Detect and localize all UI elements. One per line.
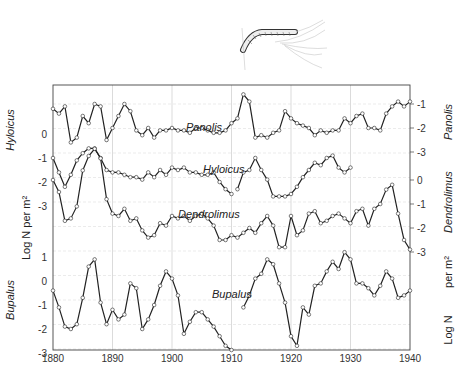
data-point: [152, 303, 156, 307]
left-axis-species-bupalus: Bupalus: [4, 280, 16, 320]
data-point: [230, 121, 234, 125]
right-tick-label: -2: [417, 223, 426, 234]
data-point: [146, 236, 150, 240]
data-point: [378, 129, 382, 133]
data-point: [295, 185, 299, 189]
data-point: [355, 282, 359, 286]
right-axis-species-panolis: Panolis: [442, 103, 454, 140]
data-point: [289, 192, 293, 196]
data-point: [242, 93, 246, 97]
data-point: [242, 306, 246, 310]
data-point: [265, 258, 269, 262]
data-point: [248, 168, 252, 172]
data-point: [236, 117, 240, 121]
data-point: [307, 126, 311, 130]
data-point: [283, 245, 287, 249]
data-point: [93, 147, 97, 151]
data-point: [396, 212, 400, 216]
data-point: [111, 212, 115, 216]
data-point: [313, 161, 317, 165]
data-point: [408, 100, 412, 104]
data-point: [259, 272, 263, 276]
data-point: [271, 195, 275, 199]
data-point: [146, 171, 150, 175]
data-point: [75, 322, 79, 326]
data-point: [283, 109, 287, 113]
data-point: [301, 124, 305, 128]
series-line-bupalus: [243, 252, 410, 346]
data-point: [361, 282, 365, 286]
data-point: [224, 344, 228, 348]
data-point: [117, 114, 121, 118]
data-point: [396, 100, 400, 104]
data-point: [367, 286, 371, 290]
x-tick-label: 1930: [339, 353, 362, 364]
data-point: [230, 192, 234, 196]
data-point: [408, 289, 412, 293]
data-point: [313, 284, 317, 288]
data-point: [146, 318, 150, 322]
left-tick-label: -2: [38, 177, 47, 188]
data-point: [390, 105, 394, 109]
data-point: [170, 166, 174, 170]
x-tick-label: 1920: [280, 353, 303, 364]
data-point: [325, 131, 329, 135]
data-point: [259, 168, 263, 172]
right-axis-title-log: Log N: [442, 315, 454, 344]
data-point: [248, 226, 252, 230]
data-point: [301, 306, 305, 310]
data-point: [361, 207, 365, 211]
data-point: [81, 296, 85, 300]
data-point: [361, 112, 365, 116]
data-point: [206, 318, 210, 322]
data-point: [295, 233, 299, 237]
data-point: [337, 129, 341, 133]
data-point: [99, 301, 103, 305]
data-point: [194, 171, 198, 175]
data-point: [367, 126, 371, 130]
data-point: [176, 168, 180, 172]
left-axis-species-hyloicus: Hyloicus: [4, 109, 16, 151]
data-point: [384, 112, 388, 116]
data-point: [254, 231, 258, 235]
data-point: [158, 168, 162, 172]
data-point: [319, 282, 323, 286]
data-point: [194, 310, 198, 314]
data-point: [259, 221, 263, 225]
data-point: [271, 131, 275, 135]
plot-area: 18801890190019101920193019400-1-2-310-1-…: [4, 85, 454, 364]
data-point: [69, 173, 73, 177]
data-point: [87, 147, 91, 151]
data-point: [140, 133, 144, 137]
data-point: [265, 214, 269, 218]
data-point: [87, 121, 91, 125]
data-point: [99, 157, 103, 161]
x-tick-label: 1910: [220, 353, 243, 364]
data-point: [152, 233, 156, 237]
series-label-panolis: Panolis: [186, 121, 223, 133]
data-point: [176, 129, 180, 133]
data-point: [158, 129, 162, 133]
data-point: [81, 151, 85, 155]
data-point: [343, 171, 347, 175]
data-point: [117, 318, 121, 322]
data-point: [277, 282, 281, 286]
data-point: [140, 229, 144, 233]
data-point: [408, 248, 412, 252]
data-point: [152, 175, 156, 179]
data-point: [69, 327, 73, 331]
data-point: [390, 277, 394, 281]
data-point: [105, 322, 109, 326]
data-point: [218, 180, 222, 184]
data-point: [117, 214, 121, 218]
series-label-dendrolimus: Dendrolimus: [178, 208, 240, 220]
data-point: [283, 195, 287, 199]
data-point: [271, 262, 275, 266]
data-point: [63, 185, 67, 189]
data-point: [277, 129, 281, 133]
data-point: [93, 102, 97, 106]
data-point: [230, 348, 234, 352]
data-point: [218, 334, 222, 338]
data-point: [313, 133, 317, 137]
data-point: [105, 168, 109, 172]
